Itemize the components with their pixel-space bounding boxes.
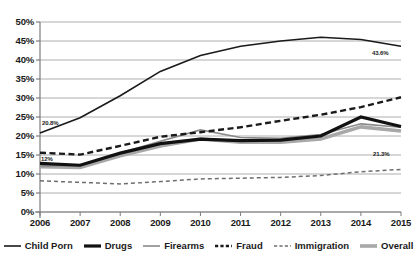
x-tick-label: 2006	[20, 217, 60, 228]
y-tick-label: 45%	[2, 35, 34, 46]
x-tick-label: 2008	[100, 217, 140, 228]
series-line-fraud	[40, 97, 401, 154]
data-point-label: 43.6%	[372, 50, 389, 56]
legend-label: Fraud	[236, 240, 262, 251]
x-tick-label: 2013	[301, 217, 341, 228]
legend-item-immigration[interactable]: Immigration	[274, 240, 349, 251]
y-tick-label: 30%	[2, 92, 34, 103]
chart-legend: Child PornDrugsFirearmsFraudImmigrationO…	[0, 240, 417, 251]
series-line-child-porn	[40, 37, 401, 133]
legend-swatch	[143, 241, 160, 251]
legend-item-firearms[interactable]: Firearms	[143, 240, 204, 251]
y-tick-label: 50%	[2, 16, 34, 27]
legend-label: Drugs	[105, 240, 132, 251]
y-tick-label: 0%	[2, 206, 34, 217]
line-chart: 50%45%40%35%30%25%20%15%10%5%0% 20062007…	[0, 0, 417, 266]
x-tick-label: 2007	[60, 217, 100, 228]
legend-swatch	[4, 241, 21, 251]
x-tick-label: 2009	[140, 217, 180, 228]
x-tick-label: 2015	[381, 217, 417, 228]
y-tick-label: 15%	[2, 149, 34, 160]
legend-swatch	[274, 241, 291, 251]
legend-item-child-porn[interactable]: Child Porn	[4, 240, 73, 251]
x-tick-label: 2010	[180, 217, 220, 228]
y-tick-label: 40%	[2, 54, 34, 65]
y-tick-label: 20%	[2, 130, 34, 141]
legend-item-drugs[interactable]: Drugs	[84, 240, 132, 251]
legend-label: Firearms	[164, 240, 204, 251]
series-line-drugs	[40, 117, 401, 165]
y-tick-label: 25%	[2, 111, 34, 122]
x-tick-label: 2011	[221, 217, 261, 228]
data-point-label: 12%	[41, 156, 53, 162]
legend-label: Overall	[381, 240, 413, 251]
legend-swatch	[360, 241, 377, 251]
legend-label: Immigration	[295, 240, 349, 251]
data-point-label: 21.3%	[373, 151, 390, 157]
series-line-immigration	[40, 169, 401, 183]
legend-item-overall[interactable]: Overall	[360, 240, 413, 251]
y-tick-label: 35%	[2, 73, 34, 84]
legend-item-fraud[interactable]: Fraud	[215, 240, 262, 251]
data-point-label: 20.8%	[42, 120, 59, 126]
legend-swatch	[215, 241, 232, 251]
x-tick-label: 2012	[261, 217, 301, 228]
legend-swatch	[84, 241, 101, 251]
legend-label: Child Porn	[25, 240, 73, 251]
x-tick-label: 2014	[341, 217, 381, 228]
y-tick-label: 10%	[2, 168, 34, 179]
y-tick-label: 5%	[2, 187, 34, 198]
